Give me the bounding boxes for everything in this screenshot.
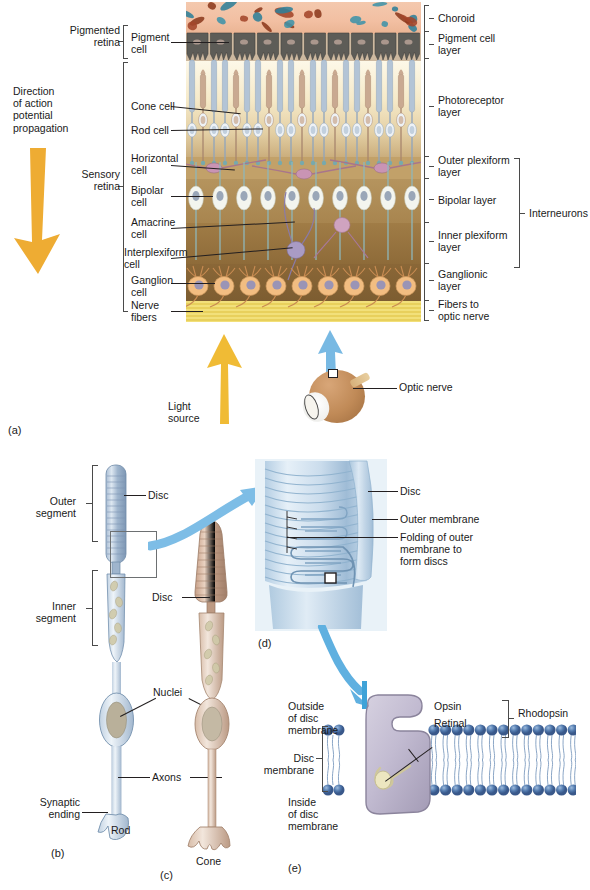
label-rod-cell: Rod cell <box>131 124 169 136</box>
label-pigment-cell: Pigment cell <box>131 31 170 55</box>
label-ganglion-cell: Ganglion cell <box>131 274 173 298</box>
leader-outer-membrane <box>372 519 398 520</box>
label-fibers-to-optic-nerve: Fibers to optic nerve <box>438 298 489 322</box>
label-photoreceptor-layer: Photoreceptor layer <box>438 94 504 118</box>
label-nerve-fibers: Nerve fibers <box>131 299 159 323</box>
label-rod-name: Rod <box>111 824 130 836</box>
panel-label-d: (d) <box>258 637 271 649</box>
retina-sample-marker <box>328 369 338 378</box>
leader-pigment-cell <box>171 42 229 43</box>
leader-ganglion-cell <box>171 283 215 284</box>
retina-cell-layer <box>186 2 421 322</box>
leader-bipolar-cell <box>171 196 213 197</box>
leader-folding-outer-membrane <box>287 537 398 538</box>
rod-cell-illustration <box>86 462 146 862</box>
label-outside-of-disc-membrane: Outside of disc membrane <box>288 700 338 737</box>
label-axons: Axons <box>152 771 181 783</box>
label-amacrine-cell: Amacrine cell <box>131 216 175 240</box>
label-choroid: Choroid <box>438 12 475 24</box>
label-light-source: Light source <box>168 400 200 424</box>
label-bipolar-layer: Bipolar layer <box>438 194 496 206</box>
label-sensory-retina: Sensory retina <box>48 168 120 192</box>
label-pigment-cell-layer: Pigment cell layer <box>438 32 495 56</box>
label-outer-membrane: Outer membrane <box>400 513 479 525</box>
label-optic-nerve: Optic nerve <box>399 381 453 393</box>
retina-cross-section <box>186 2 421 322</box>
leader-optic-nerve <box>353 388 397 389</box>
label-interneurons: Interneurons <box>529 207 588 219</box>
label-folding-of-outer-membrane: Folding of outer membrane to form discs <box>400 531 473 568</box>
leader-synaptic-ending <box>82 812 108 813</box>
eyeball-illustration <box>303 368 371 426</box>
panel-label-e: (e) <box>288 862 301 874</box>
leader-disc-rod <box>124 495 146 496</box>
label-bipolar-cell: Bipolar cell <box>131 184 164 208</box>
panel-label-b: (b) <box>51 847 64 859</box>
label-ganglionic-layer: Ganglionic layer <box>438 268 488 292</box>
label-inner-plexiform-layer: Inner plexiform layer <box>438 229 507 253</box>
light-source-arrow <box>202 334 250 424</box>
label-cone-name: Cone <box>196 855 221 867</box>
label-rhodopsin: Rhodopsin <box>518 707 568 719</box>
label-direction-of-propagation: Direction of action potential propagatio… <box>13 85 68 134</box>
label-disc-membrane: Disc membrane <box>252 752 314 776</box>
disc-stack-illustration <box>255 459 387 631</box>
label-horizontal-cell: Horizontal cell <box>131 152 178 176</box>
leader-disc-d <box>368 491 398 492</box>
disc-folding-detail <box>255 459 387 631</box>
label-synaptic-ending: Synaptic ending <box>12 796 80 820</box>
label-inner-segment: Inner segment <box>12 600 76 624</box>
leader-disc-cone <box>182 597 210 598</box>
leader-axon-rod <box>118 777 150 778</box>
label-outer-plexiform-layer: Outer plexiform layer <box>438 154 510 178</box>
bilayer-right <box>428 724 576 795</box>
label-retinal: Retinal <box>434 717 467 729</box>
label-outer-segment: Outer segment <box>12 495 76 519</box>
panel-label-a: (a) <box>8 424 21 436</box>
label-pigmented-retina: Pigmented retina <box>48 24 120 48</box>
figure-root: Pigmented retina Sensory retina Pigment … <box>0 0 590 890</box>
cone-cell-illustration <box>180 518 242 862</box>
label-disc-cone: Disc <box>152 591 172 603</box>
leader-nerve-fibers <box>171 311 203 312</box>
panel-label-c: (c) <box>160 869 173 881</box>
label-cone-cell: Cone cell <box>131 100 175 112</box>
label-disc-d: Disc <box>400 485 420 497</box>
label-interplexiform-cell: Interplexiform cell <box>124 246 188 270</box>
label-nuclei: Nuclei <box>153 686 182 698</box>
label-inside-of-disc-membrane: Inside of disc membrane <box>288 796 338 833</box>
label-opsin: Opsin <box>434 700 461 712</box>
